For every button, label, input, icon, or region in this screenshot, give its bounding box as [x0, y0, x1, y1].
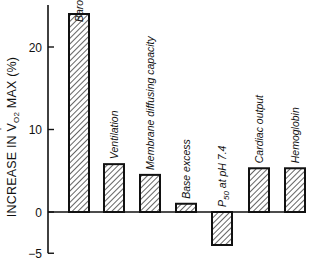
bar-label: Cardiac output	[253, 94, 265, 163]
bar	[69, 14, 89, 212]
y-tick-label: 20	[29, 41, 43, 55]
bar	[285, 168, 305, 212]
bar	[249, 168, 269, 212]
bar-label: Hemoglobin	[289, 107, 301, 163]
bar-label: Base excess	[180, 138, 192, 198]
bars	[69, 14, 305, 245]
bar-label: Membrane diffusing capacity	[144, 35, 156, 169]
y-tick-label: 0	[35, 206, 42, 220]
y-tick-label: 10	[29, 123, 43, 137]
bar-label: Barometric pressure	[73, 0, 85, 22]
y-tick-label: −5	[28, 247, 42, 261]
bar	[140, 175, 160, 212]
bar	[176, 204, 196, 212]
bar	[212, 212, 232, 245]
bar	[104, 164, 124, 212]
bar-label: Ventilation	[108, 110, 120, 159]
bar-chart: 20100−5 Barometric pressureVentilationMe…	[0, 0, 317, 269]
bar-label: P50 at pH 7.4	[216, 145, 231, 207]
